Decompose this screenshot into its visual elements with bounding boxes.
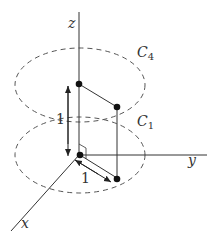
c4-label-sub: 4 [148,51,154,62]
point-origin [77,152,84,159]
z-axis-label: z [67,15,76,31]
c4-label-main: C [137,44,148,60]
c4-label: C4 [137,44,154,62]
y-axis-label: y [187,152,197,168]
point-upper-helix [114,104,121,111]
x-axis-label: x [21,215,29,231]
point-upper-axis [76,81,83,88]
c1-label: C1 [137,113,154,131]
cylindrical-helix-diagram: z y x C4 C1 1 1 [0,0,218,242]
point-lower-helix [114,176,121,183]
vertical-dimension-label: 1 [56,111,65,127]
upper-radius-segment [79,84,117,107]
radial-dimension-label: 1 [81,170,90,186]
c1-label-sub: 1 [148,120,154,131]
c1-label-main: C [137,113,148,129]
